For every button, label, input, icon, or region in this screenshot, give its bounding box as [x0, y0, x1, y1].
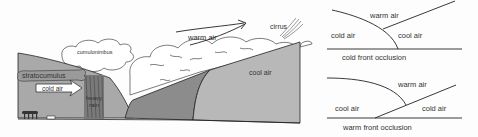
cumulonimbus-label: cumulonimbus: [77, 49, 113, 55]
wfo-cold-air-label: cold air: [422, 104, 447, 113]
rain-label: rain: [89, 102, 99, 108]
cirrus-label: cirrus: [270, 23, 288, 30]
wfo-cool-air-label: cool air: [335, 104, 360, 113]
cfo-cool-air-label: cool air: [398, 31, 423, 40]
warm-air-label: warm air: [187, 33, 217, 42]
occluded-front-diagram: cumulonimbus stratocumulus cold air heav…: [0, 0, 478, 137]
cfo-cold-air-label: cold air: [331, 31, 356, 40]
heavy-label: heavy: [86, 95, 102, 101]
cold-air-label: cold air: [42, 85, 64, 92]
cfo-warm-air-label: warm air: [369, 11, 399, 20]
main-cross-section: cumulonimbus stratocumulus cold air heav…: [17, 18, 312, 123]
cool-air-label: cool air: [249, 69, 272, 76]
wfo-warm-air-label: warm air: [397, 80, 427, 89]
cold-front-occlusion-diagram: [327, 1, 462, 49]
car-icon: [47, 116, 55, 119]
wfo-title: warm front occlusion: [342, 123, 412, 132]
cfo-title: cold front occlusion: [342, 53, 406, 62]
stratocumulus-label: stratocumulus: [22, 72, 66, 79]
